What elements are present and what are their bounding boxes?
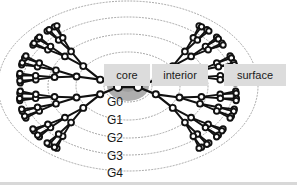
dendrimer-node	[18, 88, 23, 93]
dendrimer-node	[80, 105, 86, 111]
dendrimer-node	[176, 94, 182, 100]
region-label-interior: interior	[152, 64, 208, 86]
dendrimer-node	[44, 140, 49, 145]
dendrimer-node	[37, 35, 42, 40]
dendrimer-node	[68, 120, 74, 126]
region-label-core-text: core	[116, 69, 137, 81]
dendrimer-node	[197, 101, 203, 107]
dendrimer-node	[218, 96, 224, 102]
dendrimer-node	[23, 53, 28, 58]
generation-label-g0: G0	[102, 96, 128, 109]
dendrimer-node	[62, 53, 68, 59]
dendrimer-node	[33, 73, 39, 79]
region-label-surface: surface	[224, 64, 286, 86]
generation-label-g2: G2	[102, 132, 128, 145]
dendrimer-node	[170, 105, 176, 111]
dendrimer-node	[196, 145, 201, 150]
dendrimer-node	[74, 74, 80, 80]
dendrimer-node	[33, 92, 39, 98]
dendrimer-node	[97, 77, 103, 83]
dendrimer-node	[52, 74, 58, 80]
dendrimer-node	[220, 42, 225, 47]
region-label-surface-text: surface	[237, 69, 273, 81]
dendrimer-node	[233, 98, 238, 103]
generation-label-g4: G4	[102, 167, 128, 180]
bottom-rule	[0, 182, 297, 185]
dendrimer-figure: core interior surface G0 G1 G2 G3 G4	[0, 0, 297, 185]
generation-label-g3: G3	[102, 150, 128, 163]
dendrimer-node	[188, 115, 194, 121]
dendrimer-node	[30, 126, 35, 131]
region-label-core: core	[104, 64, 150, 86]
dendrimer-node	[68, 49, 74, 55]
generation-label-g1: G1	[102, 114, 128, 127]
dendrimer-node	[19, 107, 24, 112]
dendrimer-node	[62, 115, 68, 121]
dendrimer-node	[17, 71, 22, 76]
dendrimer-node	[53, 67, 59, 73]
dendrimer-node	[182, 120, 188, 126]
dendrimer-node	[52, 94, 58, 100]
dendrimer-node	[203, 125, 209, 131]
dendrimer-node	[214, 134, 219, 139]
dendrimer-node	[216, 64, 222, 70]
region-label-interior-text: interior	[163, 69, 197, 81]
dendrimer-node	[153, 91, 159, 97]
dendrimer-node	[214, 108, 220, 114]
dendrimer-node	[199, 94, 205, 100]
dendrimer-node	[227, 115, 232, 120]
dendrimer-node	[190, 133, 196, 139]
dendrimer-node	[206, 28, 211, 33]
dendrimer-node	[205, 47, 211, 53]
dendrimer-node	[36, 60, 42, 66]
dendrimer-structure	[0, 0, 297, 185]
dendrimer-node	[80, 63, 86, 69]
dendrimer-node	[195, 37, 201, 43]
dendrimer-node	[48, 44, 54, 50]
dendrimer-node	[35, 104, 41, 110]
dendrimer-node	[56, 131, 62, 137]
dendrimer-node	[60, 35, 66, 41]
dendrimer-node	[54, 23, 59, 28]
dendrimer-node	[188, 53, 194, 59]
dendrimer-node	[217, 77, 223, 83]
dendrimer-node	[74, 94, 80, 100]
dendrimer-node	[53, 101, 59, 107]
dendrimer-node	[45, 121, 51, 127]
dendrimer-node	[182, 49, 188, 55]
